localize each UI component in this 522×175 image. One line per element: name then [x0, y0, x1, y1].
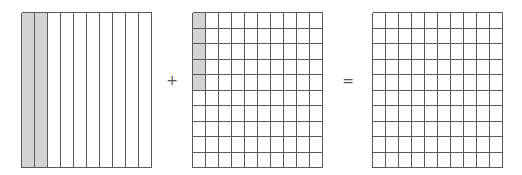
tenths-grid-svg [21, 12, 153, 168]
shaded-cell [193, 59, 206, 75]
result-grid-svg [372, 12, 504, 168]
shaded-cell [193, 28, 206, 44]
shaded-column [22, 13, 35, 168]
plus-sign: + [164, 73, 180, 87]
shaded-cell [193, 75, 206, 91]
tenths-grid [21, 12, 153, 168]
result-grid [372, 12, 504, 168]
hundredths-grid-svg [192, 12, 324, 168]
shaded-cell [193, 13, 206, 29]
shaded-column [35, 13, 48, 168]
shaded-cell [193, 44, 206, 60]
equals-sign: = [340, 74, 356, 88]
hundredths-grid [192, 12, 324, 168]
